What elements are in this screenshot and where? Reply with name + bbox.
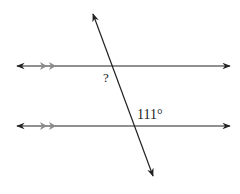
known-angle-label: 111°: [137, 107, 163, 122]
transversal: [93, 14, 153, 176]
unknown-angle-label: ?: [103, 70, 109, 85]
geometry-diagram: ? 111°: [0, 0, 240, 194]
